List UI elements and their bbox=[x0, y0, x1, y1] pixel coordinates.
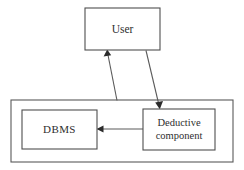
node-deductive-component-label-line2: component bbox=[156, 130, 203, 141]
node-user-label: User bbox=[112, 23, 134, 35]
diagram-canvas: User DBMS Deductive component bbox=[0, 0, 244, 170]
node-deductive-component[interactable]: Deductive component bbox=[143, 109, 215, 150]
node-dbms-label: DBMS bbox=[43, 123, 76, 135]
node-user[interactable]: User bbox=[85, 8, 160, 50]
edge-deductive-to-dbms-arrowhead bbox=[97, 125, 104, 132]
edge-user-to-deductive-arrowhead bbox=[155, 101, 163, 109]
edge-user-to-deductive-line bbox=[146, 51, 159, 104]
node-deductive-component-label-line1: Deductive bbox=[157, 117, 200, 128]
edge-dbms-to-user-arrowhead bbox=[104, 50, 112, 57]
edge-dbms-to-user-line bbox=[108, 55, 117, 101]
node-dbms[interactable]: DBMS bbox=[22, 110, 97, 149]
diagram-root: User DBMS Deductive component bbox=[0, 0, 244, 170]
